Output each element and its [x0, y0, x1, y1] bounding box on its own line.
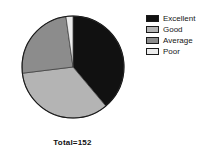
- legend-item-good[interactable]: Good: [146, 24, 214, 35]
- legend-swatch-good: [146, 26, 159, 33]
- legend-swatch-poor: [146, 48, 159, 55]
- legend-item-excellent[interactable]: Excellent: [146, 13, 214, 24]
- legend-label-average: Average: [163, 36, 193, 45]
- legend-item-average[interactable]: Average: [146, 35, 214, 46]
- legend-swatch-average: [146, 37, 159, 44]
- legend-label-excellent: Excellent: [163, 14, 195, 23]
- legend-label-good: Good: [163, 25, 183, 34]
- pie-chart-figure: Total=152 Excellent Good Average Poor: [0, 0, 215, 166]
- pie-slice-average[interactable]: [22, 17, 73, 74]
- pie-svg: [0, 0, 145, 132]
- legend-item-poor[interactable]: Poor: [146, 46, 214, 57]
- total-label: Total=152: [0, 138, 145, 147]
- legend: Excellent Good Average Poor: [146, 13, 214, 57]
- legend-swatch-excellent: [146, 15, 159, 22]
- legend-label-poor: Poor: [163, 47, 180, 56]
- pie-plot-area: [0, 0, 145, 132]
